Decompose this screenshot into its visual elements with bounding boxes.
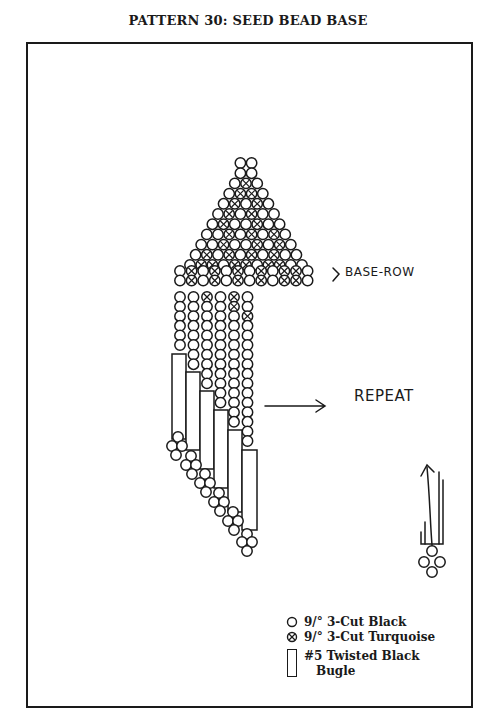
black-bead: [268, 275, 278, 285]
black-bead: [202, 229, 212, 239]
black-bead: [242, 388, 252, 398]
turquoise-bead: [241, 178, 251, 188]
black-bead: [235, 168, 245, 178]
legend-item-black: 9/° 3-Cut Black: [286, 615, 435, 630]
legend-item-bugle: #5 Twisted Black Bugle: [286, 649, 435, 683]
black-bead: [229, 321, 239, 331]
black-bead: [188, 330, 198, 340]
turquoise-bead: [229, 292, 239, 302]
legend-label: #5 Twisted Black: [304, 649, 420, 664]
black-bead: [213, 209, 223, 219]
black-bead: [202, 359, 212, 369]
black-bead: [242, 546, 252, 556]
turquoise-bead: [246, 188, 256, 198]
black-bead: [258, 188, 268, 198]
turquoise-bead: [279, 275, 289, 285]
black-bead: [229, 369, 239, 379]
black-bead: [175, 292, 185, 302]
black-bead: [263, 239, 273, 249]
black-bead: [175, 275, 185, 285]
black-bead: [188, 301, 198, 311]
black-bead: [244, 275, 254, 285]
legend-item-turquoise: 9/° 3-Cut Turquoise: [286, 630, 435, 645]
black-bead: [235, 229, 245, 239]
black-bead: [175, 311, 185, 321]
black-bead: [202, 330, 212, 340]
black-bead: [242, 436, 252, 446]
black-bead: [246, 168, 256, 178]
black-bead: [263, 199, 273, 209]
black-bead: [242, 340, 252, 350]
black-bead: [224, 188, 234, 198]
black-bead: [215, 369, 225, 379]
black-bead: [242, 321, 252, 331]
bugle-bead-6: [242, 450, 257, 530]
black-bead: [175, 330, 185, 340]
black-bead: [302, 275, 312, 285]
black-bead: [229, 311, 239, 321]
black-bead: [215, 330, 225, 340]
black-bead: [229, 407, 239, 417]
black-bead: [190, 250, 200, 260]
black-bead: [280, 229, 290, 239]
black-bead: [188, 340, 198, 350]
turquoise-bead: [230, 199, 240, 209]
black-bead: [213, 229, 223, 239]
black-bead: [235, 209, 245, 219]
black-bead: [202, 311, 212, 321]
black-bead: [242, 397, 252, 407]
black-bead: [269, 209, 279, 219]
black-bead: [280, 250, 290, 260]
turquoise-bead: [233, 275, 243, 285]
legend-label: 9/° 3-Cut Turquoise: [304, 630, 435, 644]
black-bead: [188, 292, 198, 302]
turquoise-bead: [210, 275, 220, 285]
black-bead: [215, 340, 225, 350]
black-bead: [246, 158, 256, 168]
black-bead: [207, 239, 217, 249]
black-bead: [229, 388, 239, 398]
black-bead: [241, 239, 251, 249]
bugle-bead-4: [214, 410, 228, 488]
black-bead: [202, 378, 212, 388]
black-bead: [215, 506, 225, 516]
black-bead: [202, 340, 212, 350]
black-bead: [188, 359, 198, 369]
black-bead: [218, 199, 228, 209]
black-bead: [258, 209, 268, 219]
bugle-bead-5: [228, 430, 242, 512]
black-bead: [215, 388, 225, 398]
black-bead: [242, 359, 252, 369]
black-bead: [230, 178, 240, 188]
turquoise-bead: [218, 239, 228, 249]
turquoise-bead: [269, 229, 279, 239]
black-bead: [175, 321, 185, 331]
bugle-bead-2: [186, 372, 200, 450]
black-bead: [241, 219, 251, 229]
black-bead: [230, 219, 240, 229]
black-bead: [286, 239, 296, 249]
black-bead: [230, 239, 240, 249]
black-bead: [213, 250, 223, 260]
black-bead: [435, 557, 445, 567]
turquoise-bead: [235, 188, 245, 198]
black-bead: [229, 359, 239, 369]
black-bead: [258, 229, 268, 239]
bracket-icon: [333, 268, 339, 281]
turquoise-bead: [202, 292, 212, 302]
black-bead: [241, 199, 251, 209]
black-bead: [419, 557, 429, 567]
turquoise-bead: [269, 250, 279, 260]
base-row-label: BASE-ROW: [345, 265, 415, 279]
black-bead: [229, 340, 239, 350]
black-bead: [242, 407, 252, 417]
black-bead: [242, 369, 252, 379]
black-bead: [242, 378, 252, 388]
black-bead: [202, 321, 212, 331]
black-bead: [188, 321, 198, 331]
black-bead: [175, 340, 185, 350]
turquoise-bead: [224, 250, 234, 260]
black-bead: [187, 469, 197, 479]
black-bead: [188, 349, 198, 359]
turquoise-bead: [242, 311, 252, 321]
